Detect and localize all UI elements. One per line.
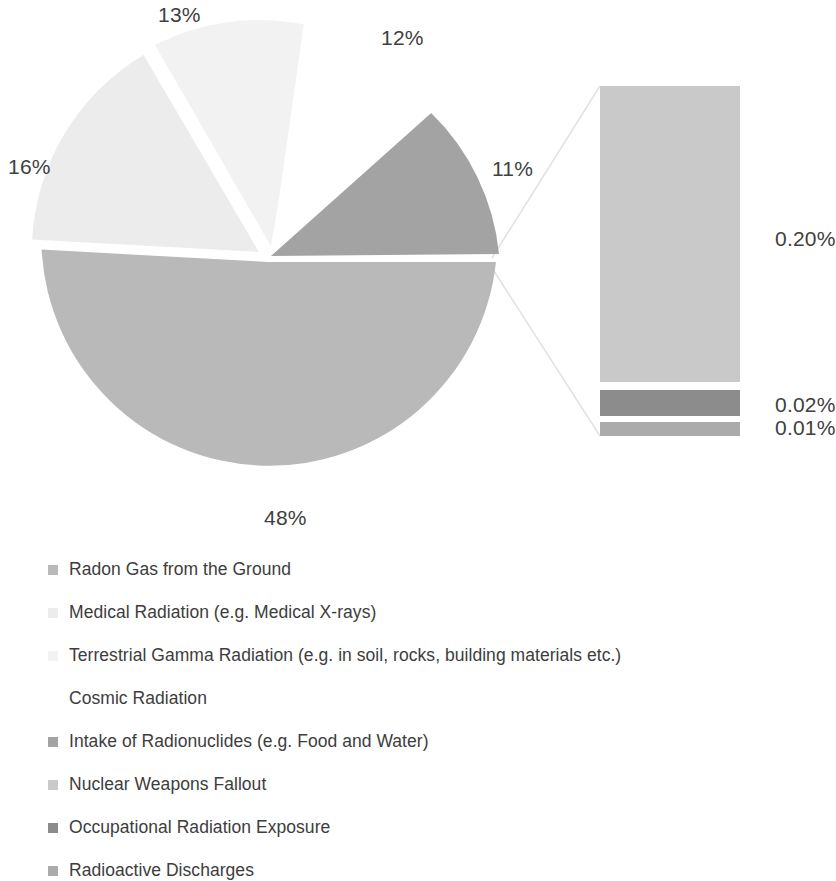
legend-swatch-icon	[48, 866, 58, 876]
chart-legend: Radon Gas from the GroundMedical Radiati…	[0, 548, 830, 881]
pie-slice-radon[interactable]	[42, 250, 496, 466]
legend-item[interactable]: Intake of Radionuclides (e.g. Food and W…	[0, 720, 830, 763]
bar-segment-fallout[interactable]	[600, 86, 740, 382]
legend-swatch-icon	[48, 737, 58, 747]
pie-of-pie-chart: 13% 12% 16% 11% 48% 0.20% 0.02% 0.01%	[0, 0, 830, 545]
legend-item-label: Radon Gas from the Ground	[69, 561, 291, 579]
legend-swatch-icon	[48, 823, 58, 833]
data-label-002: 0.02%	[775, 393, 836, 417]
legend-item-label: Medical Radiation (e.g. Medical X-rays)	[69, 604, 376, 622]
legend-item-label: Occupational Radiation Exposure	[69, 819, 330, 837]
legend-item-label: Cosmic Radiation	[69, 690, 207, 708]
bar-segment-discharges[interactable]	[600, 422, 740, 436]
legend-item-label: Intake of Radionuclides (e.g. Food and W…	[69, 733, 429, 751]
bar-segment-occupational[interactable]	[600, 390, 740, 416]
chart-graphics	[0, 0, 830, 545]
data-label-11: 11%	[492, 157, 533, 181]
legend-swatch-icon	[48, 780, 58, 790]
legend-item[interactable]: Occupational Radiation Exposure	[0, 806, 830, 849]
legend-swatch-icon	[48, 608, 58, 618]
legend-item[interactable]: Terrestrial Gamma Radiation (e.g. in soi…	[0, 634, 830, 677]
legend-item[interactable]: Radioactive Discharges	[0, 849, 830, 881]
data-label-13: 13%	[158, 3, 201, 27]
data-label-16: 16%	[8, 155, 51, 179]
legend-item-label: Radioactive Discharges	[69, 862, 254, 880]
data-label-020: 0.20%	[775, 227, 836, 251]
legend-item[interactable]: Radon Gas from the Ground	[0, 548, 830, 591]
legend-item[interactable]: Medical Radiation (e.g. Medical X-rays)	[0, 591, 830, 634]
legend-item[interactable]: Cosmic Radiation	[0, 677, 830, 720]
legend-item[interactable]: Nuclear Weapons Fallout	[0, 763, 830, 806]
connector-lines	[492, 86, 600, 436]
legend-swatch-icon	[48, 565, 58, 575]
legend-swatch-icon	[48, 651, 58, 661]
data-label-12: 12%	[381, 26, 424, 50]
legend-item-label: Nuclear Weapons Fallout	[69, 776, 266, 794]
data-label-48: 48%	[264, 506, 307, 530]
legend-swatch-icon	[48, 694, 58, 704]
legend-item-label: Terrestrial Gamma Radiation (e.g. in soi…	[69, 647, 621, 665]
data-label-001: 0.01%	[775, 416, 836, 440]
